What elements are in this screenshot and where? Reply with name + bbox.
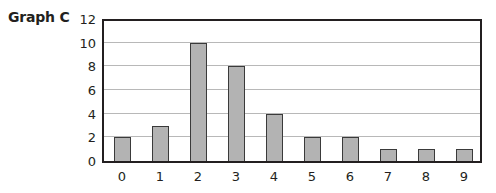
gridline xyxy=(104,65,480,66)
plot-area xyxy=(102,19,482,163)
y-tick-label: 12 xyxy=(70,13,96,27)
bar-0 xyxy=(114,137,131,161)
bar-7 xyxy=(380,149,397,161)
gridline xyxy=(104,42,480,43)
x-tick-label: 4 xyxy=(264,170,284,184)
bar-8 xyxy=(418,149,435,161)
chart-title: Graph C xyxy=(8,9,70,25)
x-tick-label: 8 xyxy=(416,170,436,184)
y-tick-label: 6 xyxy=(70,84,96,98)
x-tick-label: 2 xyxy=(188,170,208,184)
bar-3 xyxy=(228,66,245,161)
bar-1 xyxy=(152,126,169,162)
y-tick-label: 10 xyxy=(70,37,96,51)
bar-4 xyxy=(266,114,283,161)
gridline xyxy=(104,89,480,90)
x-tick-label: 0 xyxy=(112,170,132,184)
gridline xyxy=(104,113,480,114)
x-tick-label: 7 xyxy=(378,170,398,184)
y-tick-label: 4 xyxy=(70,108,96,122)
bar-2 xyxy=(190,43,207,161)
bar-9 xyxy=(456,149,473,161)
bar-5 xyxy=(304,137,321,161)
y-tick-label: 0 xyxy=(70,155,96,169)
x-tick-label: 1 xyxy=(150,170,170,184)
x-tick-label: 3 xyxy=(226,170,246,184)
x-tick-label: 6 xyxy=(340,170,360,184)
bar-6 xyxy=(342,137,359,161)
y-tick-label: 8 xyxy=(70,60,96,74)
x-tick-label: 5 xyxy=(302,170,322,184)
x-tick-label: 9 xyxy=(454,170,474,184)
y-tick-label: 2 xyxy=(70,131,96,145)
